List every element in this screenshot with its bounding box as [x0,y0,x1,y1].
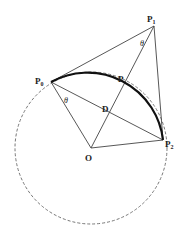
label-P: P [118,74,124,84]
line-O-P2 [91,140,163,148]
label-P2: P2 [165,139,174,150]
label-O: O [85,153,92,163]
line-O-P1 [91,26,154,148]
label-P1: P1 [147,14,156,25]
arc-diagram: P1 P0 P2 O D P θ θ [0,0,185,233]
angle-theta-P0: θ [64,96,68,105]
angle-theta-P1: θ [140,39,144,48]
label-P0: P0 [35,76,44,87]
label-D: D [102,104,109,114]
